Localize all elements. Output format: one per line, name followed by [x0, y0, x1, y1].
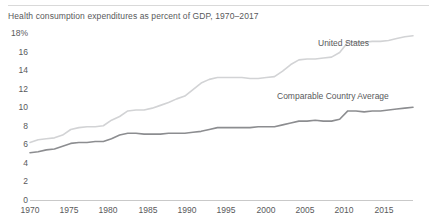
plot-area: 18% 16 14 12 10 8 6 4 2 0 1970 1975 1980…: [0, 0, 437, 222]
united-states-line: [30, 36, 413, 143]
chart-container: Health consumption expenditures as perce…: [0, 0, 437, 222]
series-label-united-states: United States: [318, 38, 369, 48]
comparable-country-average-line: [30, 107, 413, 152]
series-label-comparable-country-average: Comparable Country Average: [277, 91, 389, 101]
series-lines: [0, 0, 437, 222]
